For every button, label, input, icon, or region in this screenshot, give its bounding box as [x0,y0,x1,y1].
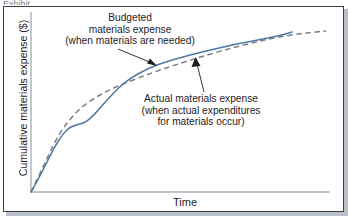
y-axis-label: Cumulative materials expense ($) [17,5,29,191]
budgeted-annotation-line-2: materials expense [55,24,205,36]
actual-annotation-arrow [192,57,205,92]
actual-annotation-line-2: (when actual expenditures [130,105,272,117]
actual-annotation-line-3: for materials occur) [130,116,272,128]
budgeted-annotation-arrow [118,49,157,66]
budgeted-annotation-line-1: Budgeted [55,12,205,24]
actual-annotation-text: Actual materials expense (when actual ex… [130,93,272,128]
actual-annotation-line-1: Actual materials expense [130,93,272,105]
budgeted-annotation-text: Budgeted materials expense (when materia… [55,12,205,47]
figure-container: Exhibit Cumulative materials expense ($)… [0,0,349,222]
x-axis-label: Time [140,196,230,209]
budgeted-annotation-line-3: (when materials are needed) [55,35,205,47]
